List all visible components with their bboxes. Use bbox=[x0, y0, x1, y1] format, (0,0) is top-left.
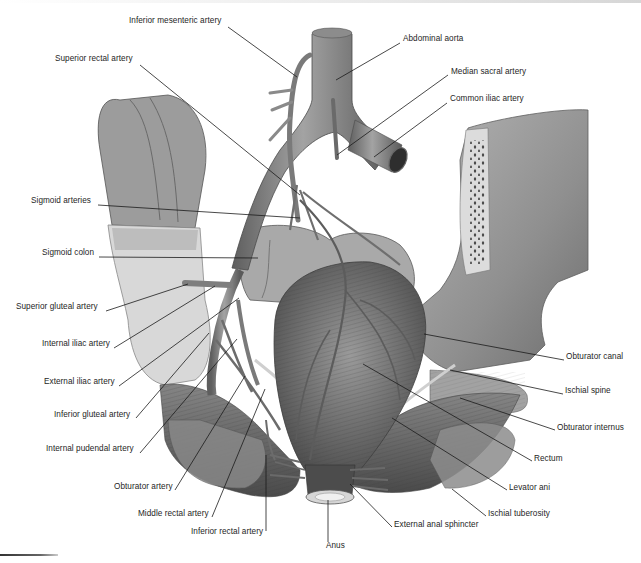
leader-line-ischial-tuberosity bbox=[452, 489, 486, 516]
label-obturator-artery: Obturator artery bbox=[114, 482, 173, 492]
label-external-anal-sphincter: External anal sphincter bbox=[394, 520, 478, 530]
label-superior-rectal-artery: Superior rectal artery bbox=[55, 54, 133, 64]
label-median-sacral-artery: Median sacral artery bbox=[451, 67, 526, 77]
leader-line-common-iliac-artery bbox=[374, 103, 447, 157]
label-sigmoid-arteries: Sigmoid arteries bbox=[31, 196, 91, 206]
left-colon-segment bbox=[98, 95, 206, 228]
pelvic-arteries-illustration bbox=[0, 0, 641, 563]
figure-bottom-rule bbox=[0, 554, 58, 556]
label-abdominal-aorta: Abdominal aorta bbox=[403, 34, 463, 44]
right-iliac-bone bbox=[405, 110, 588, 372]
label-common-iliac-artery: Common iliac artery bbox=[450, 94, 524, 104]
label-inferior-gluteal-artery: Inferior gluteal artery bbox=[54, 410, 130, 420]
label-rectum: Rectum bbox=[534, 454, 563, 464]
label-ischial-tuberosity: Ischial tuberosity bbox=[488, 509, 550, 519]
label-external-iliac-artery: External iliac artery bbox=[44, 377, 115, 387]
label-obturator-internus: Obturator internus bbox=[557, 423, 624, 433]
label-middle-rectal-artery: Middle rectal artery bbox=[138, 509, 209, 519]
label-levator-ani: Levator ani bbox=[509, 483, 550, 493]
label-internal-iliac-artery: Internal iliac artery bbox=[42, 339, 110, 349]
label-inferior-mesenteric-artery: Inferior mesenteric artery bbox=[129, 16, 221, 26]
anatomy-figure: Inferior mesenteric arteryAbdominal aort… bbox=[0, 0, 641, 563]
label-anus: Anus bbox=[326, 541, 345, 551]
label-inferior-rectal-artery: Inferior rectal artery bbox=[191, 527, 263, 537]
label-obturator-canal: Obturator canal bbox=[566, 352, 623, 362]
label-internal-pudendal-artery: Internal pudendal artery bbox=[46, 444, 134, 454]
label-superior-gluteal-artery: Superior gluteal artery bbox=[16, 302, 98, 312]
anal-canal bbox=[305, 465, 355, 504]
label-ischial-spine: Ischial spine bbox=[565, 386, 611, 396]
leader-line-inferior-mesenteric-artery bbox=[228, 27, 297, 77]
label-sigmoid-colon: Sigmoid colon bbox=[42, 248, 94, 258]
